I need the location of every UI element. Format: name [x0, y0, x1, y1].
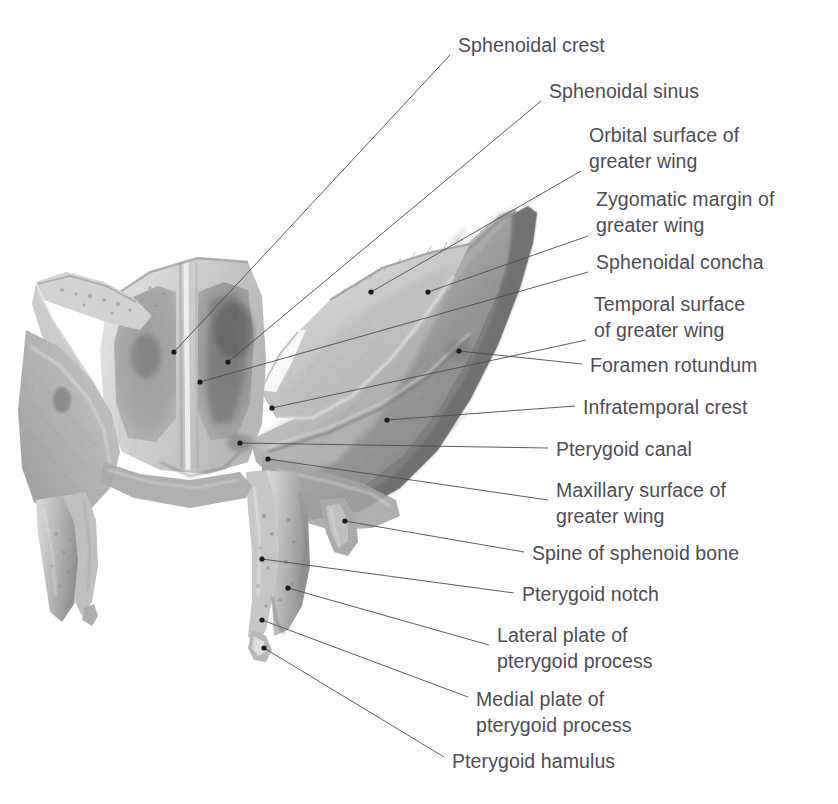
label-sphenoidal-crest: Sphenoidal crest [458, 32, 605, 58]
label-temporal-surface-of-greater-wing: Temporal surface of greater wing [594, 291, 745, 343]
label-pterygoid-canal: Pterygoid canal [556, 436, 692, 462]
label-lateral-plate-of-pterygoid-process: Lateral plate of pterygoid process [497, 622, 653, 674]
anatomical-figure: Sphenoidal crestSphenoidal sinusOrbital … [0, 0, 838, 804]
label-pterygoid-hamulus: Pterygoid hamulus [452, 748, 615, 774]
pterygoid-process-right [246, 470, 310, 662]
label-medial-plate-of-pterygoid-process: Medial plate of pterygoid process [476, 686, 632, 738]
label-spine-of-sphenoid-bone: Spine of sphenoid bone [532, 540, 739, 566]
label-zygomatic-margin-of-greater-wing: Zygomatic margin of greater wing [596, 186, 775, 238]
label-foramen-rotundum: Foramen rotundum [590, 352, 757, 378]
label-orbital-surface-of-greater-wing: Orbital surface of greater wing [589, 122, 739, 174]
label-maxillary-surface-of-greater-wing: Maxillary surface of greater wing [556, 477, 726, 529]
label-pterygoid-notch: Pterygoid notch [522, 581, 659, 607]
label-sphenoidal-concha: Sphenoidal concha [596, 249, 764, 275]
label-sphenoidal-sinus: Sphenoidal sinus [549, 78, 699, 104]
label-infratemporal-crest: Infratemporal crest [583, 394, 747, 420]
pterygoid-process-left [36, 492, 98, 626]
